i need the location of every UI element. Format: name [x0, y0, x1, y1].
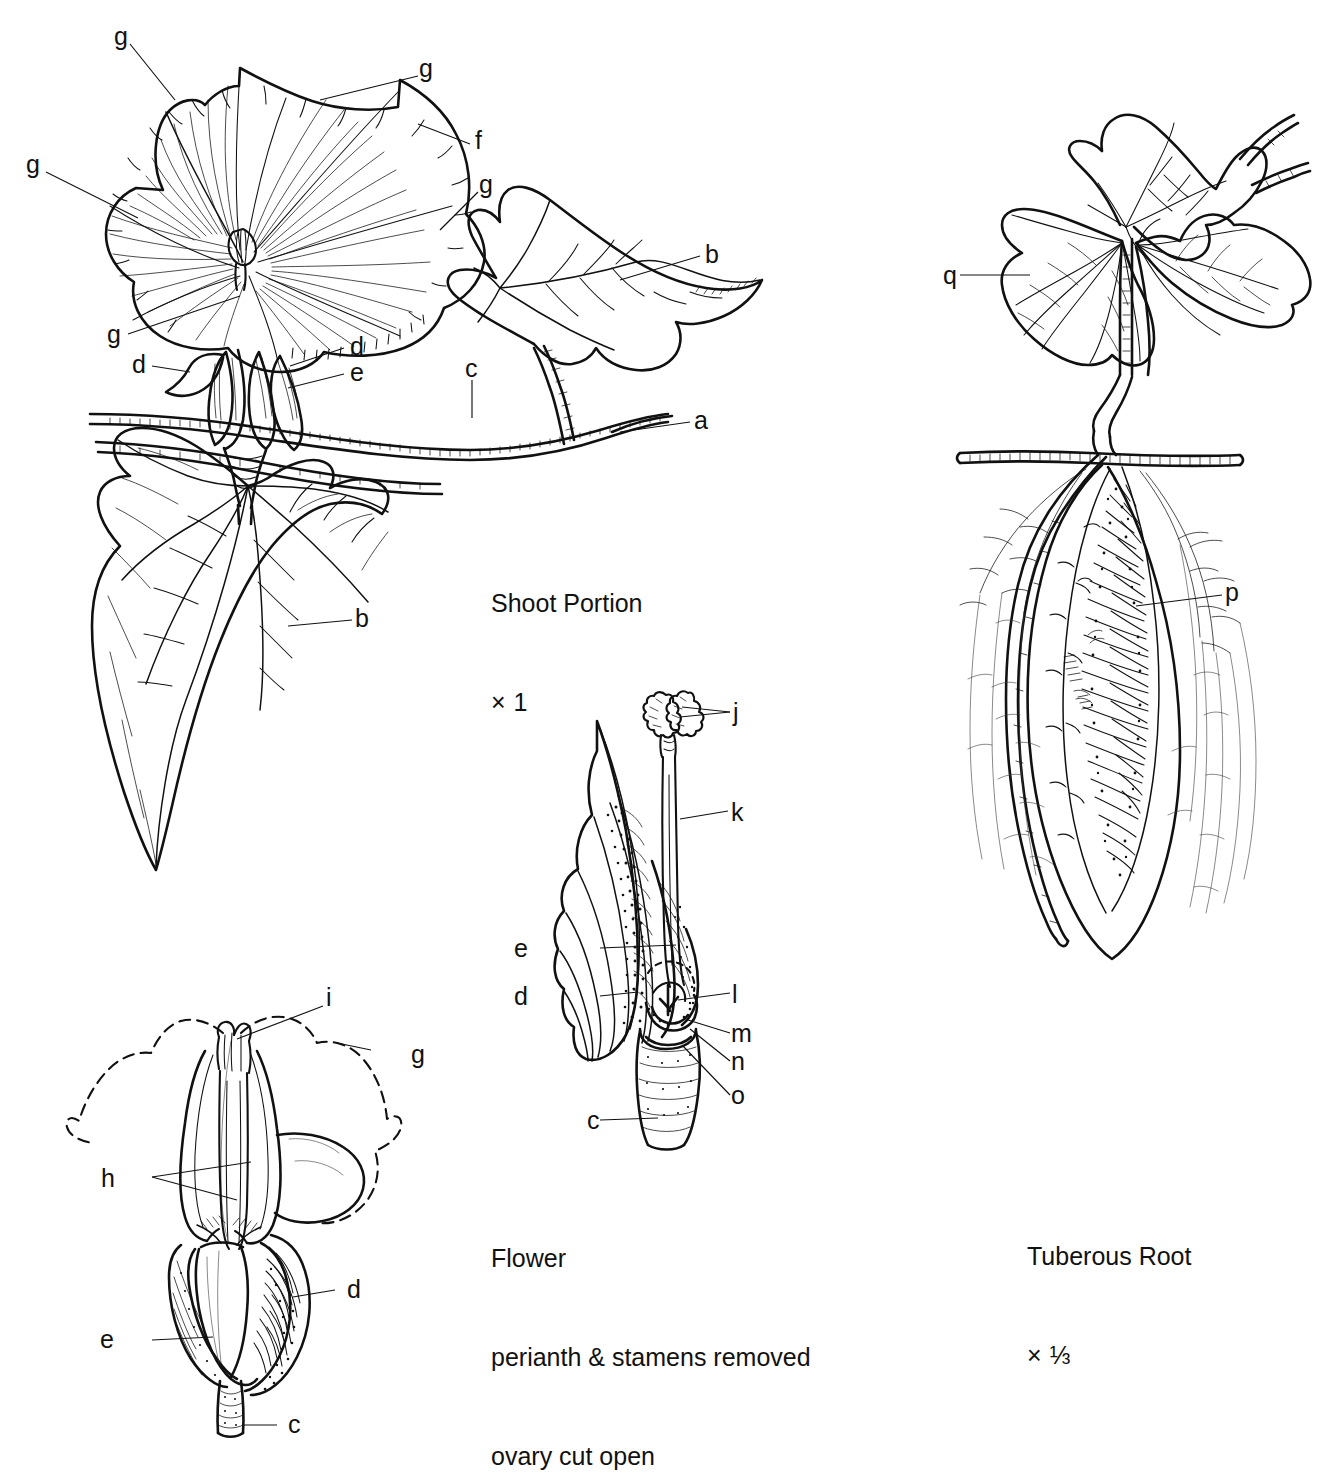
flower-dissected-caption: Flower perianth & stamens removed ovary … — [491, 1176, 811, 1478]
label-e-ovary-longitudinal: e — [100, 1327, 114, 1352]
label-c-pedicel-longitudinal: c — [288, 1412, 301, 1437]
label-f-corolla-margin: f — [475, 128, 482, 153]
label-e-flower-peduncle: e — [514, 936, 528, 961]
label-q-leaf-tuber-shoot: q — [943, 263, 957, 288]
flower-caption-title: Flower — [491, 1242, 811, 1275]
label-o-disc: o — [731, 1083, 745, 1108]
label-i-stigma-longitudinal: i — [326, 985, 332, 1010]
flower-caption-line2: perianth & stamens removed — [491, 1341, 811, 1374]
flower-caption-line3: ovary cut open — [491, 1440, 811, 1473]
label-g-right: g — [479, 172, 493, 197]
label-g-bottom: g — [107, 322, 121, 347]
label-l-ovary-wall: l — [732, 982, 738, 1007]
label-g-left: g — [26, 152, 40, 177]
label-a-stem: a — [694, 408, 708, 433]
label-d-sepal-longitudinal: d — [347, 1277, 361, 1302]
tuberous-root-caption: Tuberous Root × ⅓ — [1027, 1174, 1191, 1405]
shoot-portion-caption-title: Shoot Portion — [491, 587, 643, 620]
label-e-peduncle: e — [350, 360, 364, 385]
botanical-plate: g g g g g f d e d b b c a Shoot Portion … — [0, 0, 1323, 1478]
label-g-corolla-outline: g — [411, 1042, 425, 1067]
label-g-top-left: g — [114, 24, 128, 49]
label-h-stamen-scars: h — [101, 1166, 115, 1191]
flower-dissected-leaders — [490, 685, 820, 1155]
label-b-leaf-upper: b — [705, 242, 719, 267]
tuberous-root-leaders — [940, 75, 1310, 1145]
label-g-top-right: g — [419, 56, 433, 81]
label-m-locule: m — [731, 1021, 752, 1046]
label-j-stigma: j — [733, 700, 739, 725]
tuberous-root-caption-magnification: × ⅓ — [1027, 1339, 1191, 1372]
label-d-sepal-left: d — [132, 352, 146, 377]
label-n-ovule: n — [731, 1049, 745, 1074]
tuberous-root-caption-title: Tuberous Root — [1027, 1240, 1191, 1273]
label-d-flower-sepal: d — [514, 984, 528, 1009]
label-p-tuber-flesh: p — [1225, 580, 1239, 605]
label-k-style: k — [731, 800, 744, 825]
label-d-sepal-right: d — [350, 334, 364, 359]
label-c-petiole: c — [465, 356, 478, 381]
label-c-flower-pedicel: c — [587, 1108, 600, 1133]
label-b-leaf-lower: b — [355, 606, 369, 631]
